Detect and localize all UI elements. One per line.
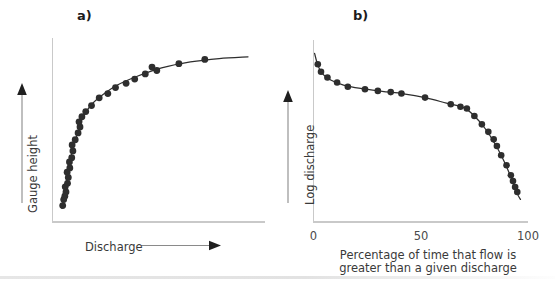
panel-a-points <box>59 56 208 209</box>
panel-b-fit-curve <box>315 53 521 199</box>
data-point <box>503 162 510 169</box>
data-point <box>457 103 464 110</box>
data-point <box>398 90 405 97</box>
panel-b-points <box>314 61 520 195</box>
chart-panel-b: b) 0 50 100 Log discharge Percentage of … <box>275 0 555 288</box>
panel-b-axes <box>314 40 529 222</box>
data-point <box>318 68 325 75</box>
data-point <box>498 152 505 159</box>
data-point <box>422 94 429 101</box>
data-point <box>201 56 208 63</box>
data-point <box>375 88 382 95</box>
data-point <box>334 79 341 86</box>
panel-b-y-arrow <box>283 90 293 203</box>
data-point <box>96 94 103 101</box>
data-point <box>387 89 394 96</box>
panel-a-y-axis-title: Gauge height <box>26 135 40 213</box>
data-point <box>82 108 89 115</box>
panel-b-caption-line-2: greater than a given discharge <box>320 262 536 275</box>
data-point <box>112 84 119 91</box>
panel-a-x-axis-title: Discharge <box>85 240 143 254</box>
data-point <box>324 74 331 81</box>
panel-b-xtick-100: 100 <box>517 229 539 243</box>
data-point <box>494 143 501 150</box>
data-point <box>508 172 515 179</box>
data-point <box>68 154 75 161</box>
data-point <box>314 61 321 68</box>
data-point <box>72 136 79 143</box>
data-point <box>104 90 111 97</box>
panel-a-x-arrow <box>141 241 221 251</box>
data-point <box>464 105 471 112</box>
panel-a-fit-curve <box>62 57 248 208</box>
data-point <box>70 147 77 154</box>
footer-divider <box>0 276 555 279</box>
data-point <box>345 83 352 90</box>
data-point <box>510 178 517 185</box>
data-point <box>175 60 182 67</box>
data-point <box>490 136 497 143</box>
data-point <box>64 180 71 187</box>
panel-a-axes <box>53 38 266 222</box>
data-point <box>88 102 95 109</box>
data-point <box>59 202 66 209</box>
data-point <box>123 80 130 87</box>
panel-b-xtick-50: 50 <box>414 229 429 243</box>
data-point <box>447 101 454 108</box>
panel-b-plot: 0 50 100 <box>275 0 555 288</box>
data-point <box>131 76 138 83</box>
data-point <box>471 113 478 120</box>
data-point <box>66 165 73 172</box>
panel-b-xtick-0: 0 <box>310 229 317 243</box>
data-point <box>514 189 521 196</box>
data-point <box>75 130 82 137</box>
data-point <box>362 86 369 93</box>
data-point <box>485 129 492 136</box>
figure-container: a) Gauge height Discharge b) <box>0 0 555 288</box>
data-point <box>153 67 160 74</box>
chart-panel-a: a) Gauge height Discharge <box>0 0 280 288</box>
data-point <box>479 121 486 128</box>
panel-b-x-axis-caption: Percentage of time that flow is greater … <box>320 249 536 275</box>
data-point <box>142 71 149 78</box>
panel-b-y-axis-title: Log discharge <box>303 125 317 205</box>
